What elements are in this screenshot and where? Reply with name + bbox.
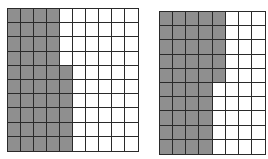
empty-cell bbox=[99, 9, 112, 23]
empty-cell bbox=[125, 9, 138, 23]
shaded-cell bbox=[34, 137, 47, 151]
empty-cell bbox=[213, 111, 226, 125]
empty-cell bbox=[86, 108, 99, 122]
shaded-cell bbox=[186, 69, 199, 83]
shaded-cell bbox=[34, 52, 47, 66]
shaded-cell bbox=[186, 26, 199, 40]
empty-cell bbox=[112, 108, 125, 122]
shaded-cell bbox=[60, 80, 73, 94]
empty-cell bbox=[239, 26, 252, 40]
empty-cell bbox=[99, 108, 112, 122]
shaded-cell bbox=[47, 52, 60, 66]
empty-cell bbox=[73, 123, 86, 137]
empty-cell bbox=[86, 37, 99, 51]
shaded-cell bbox=[173, 126, 186, 140]
shaded-cell bbox=[34, 23, 47, 37]
shaded-cell bbox=[173, 12, 186, 26]
shaded-cell bbox=[60, 108, 73, 122]
shaded-cell bbox=[47, 9, 60, 23]
empty-cell bbox=[239, 126, 252, 140]
empty-cell bbox=[239, 40, 252, 54]
empty-cell bbox=[112, 80, 125, 94]
shaded-cell bbox=[21, 23, 34, 37]
empty-cell bbox=[73, 52, 86, 66]
empty-cell bbox=[112, 137, 125, 151]
shaded-cell bbox=[173, 26, 186, 40]
empty-cell bbox=[125, 137, 138, 151]
empty-cell bbox=[213, 97, 226, 111]
shaded-cell bbox=[8, 80, 21, 94]
empty-cell bbox=[60, 37, 73, 51]
shaded-cell bbox=[47, 137, 60, 151]
shaded-cell bbox=[21, 66, 34, 80]
empty-cell bbox=[239, 140, 252, 154]
empty-cell bbox=[252, 12, 265, 26]
empty-cell bbox=[99, 23, 112, 37]
shaded-cell bbox=[160, 26, 173, 40]
empty-cell bbox=[226, 97, 239, 111]
empty-cell bbox=[99, 80, 112, 94]
empty-cell bbox=[73, 137, 86, 151]
shaded-cell bbox=[186, 140, 199, 154]
shaded-cell bbox=[21, 94, 34, 108]
empty-cell bbox=[86, 23, 99, 37]
shaded-cell bbox=[199, 40, 212, 54]
shaded-cell bbox=[8, 9, 21, 23]
empty-cell bbox=[99, 52, 112, 66]
empty-cell bbox=[86, 123, 99, 137]
shaded-cell bbox=[60, 137, 73, 151]
empty-cell bbox=[252, 40, 265, 54]
empty-cell bbox=[112, 37, 125, 51]
shaded-cell bbox=[21, 80, 34, 94]
empty-cell bbox=[112, 23, 125, 37]
empty-cell bbox=[73, 37, 86, 51]
shaded-cell bbox=[47, 37, 60, 51]
shaded-cell bbox=[160, 111, 173, 125]
empty-cell bbox=[239, 111, 252, 125]
shaded-cell bbox=[47, 123, 60, 137]
shaded-cell bbox=[34, 108, 47, 122]
empty-cell bbox=[125, 80, 138, 94]
left-grid bbox=[7, 8, 139, 152]
empty-cell bbox=[60, 23, 73, 37]
empty-cell bbox=[239, 69, 252, 83]
empty-cell bbox=[252, 69, 265, 83]
shaded-cell bbox=[47, 108, 60, 122]
empty-cell bbox=[99, 137, 112, 151]
shaded-cell bbox=[186, 126, 199, 140]
empty-cell bbox=[239, 12, 252, 26]
empty-cell bbox=[226, 126, 239, 140]
empty-cell bbox=[226, 111, 239, 125]
empty-cell bbox=[226, 140, 239, 154]
right-grid bbox=[159, 11, 266, 155]
empty-cell bbox=[125, 52, 138, 66]
empty-cell bbox=[226, 26, 239, 40]
shaded-cell bbox=[160, 12, 173, 26]
shaded-cell bbox=[34, 66, 47, 80]
empty-cell bbox=[73, 9, 86, 23]
shaded-cell bbox=[160, 40, 173, 54]
empty-cell bbox=[86, 94, 99, 108]
empty-cell bbox=[99, 37, 112, 51]
empty-cell bbox=[226, 40, 239, 54]
shaded-cell bbox=[21, 123, 34, 137]
empty-cell bbox=[252, 83, 265, 97]
shaded-cell bbox=[21, 137, 34, 151]
shaded-cell bbox=[199, 55, 212, 69]
shaded-cell bbox=[199, 83, 212, 97]
empty-cell bbox=[213, 140, 226, 154]
empty-cell bbox=[226, 55, 239, 69]
shaded-cell bbox=[21, 108, 34, 122]
shaded-cell bbox=[199, 26, 212, 40]
shaded-cell bbox=[186, 40, 199, 54]
shaded-cell bbox=[21, 37, 34, 51]
empty-cell bbox=[86, 9, 99, 23]
empty-cell bbox=[99, 94, 112, 108]
shaded-cell bbox=[186, 83, 199, 97]
empty-cell bbox=[73, 108, 86, 122]
shaded-cell bbox=[199, 69, 212, 83]
empty-cell bbox=[112, 123, 125, 137]
shaded-cell bbox=[47, 23, 60, 37]
empty-cell bbox=[73, 80, 86, 94]
shaded-cell bbox=[34, 94, 47, 108]
